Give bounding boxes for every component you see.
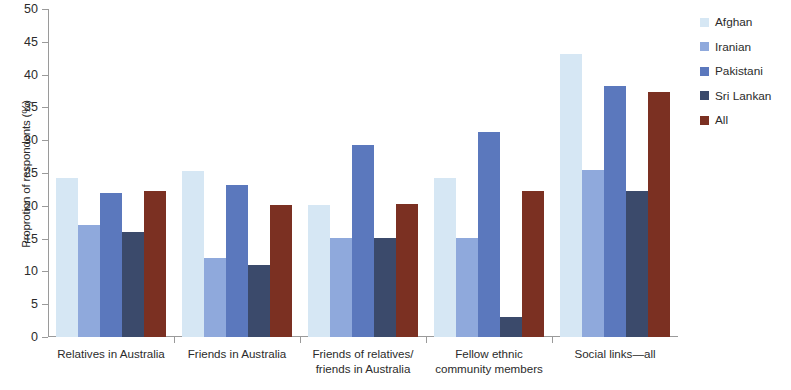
y-tick-mark <box>42 271 48 272</box>
bar <box>522 191 544 337</box>
legend-label: Pakistani <box>715 64 763 78</box>
y-tick-mark <box>42 304 48 305</box>
legend-swatch-icon <box>700 42 709 51</box>
bar <box>144 191 166 337</box>
bar <box>204 258 226 337</box>
y-tick-label: 5 <box>31 297 38 311</box>
y-tick-label: 35 <box>24 100 38 114</box>
bar <box>604 86 626 337</box>
legend-label: Sri Lankan <box>715 89 771 103</box>
legend-item[interactable]: Pakistani <box>700 59 790 84</box>
x-category-label: Friends in Australia <box>174 346 300 361</box>
bar <box>648 92 670 337</box>
y-tick-mark <box>42 9 48 10</box>
y-tick-mark <box>42 337 48 338</box>
x-tick-mark <box>174 337 175 343</box>
y-tick-mark <box>42 239 48 240</box>
bar <box>56 178 78 337</box>
legend-item[interactable]: Iranian <box>700 35 790 60</box>
bar <box>626 191 648 337</box>
x-tick-mark <box>300 337 301 343</box>
y-tick-mark <box>42 42 48 43</box>
y-tick-mark <box>42 173 48 174</box>
bar-group <box>308 9 418 337</box>
bar <box>308 205 330 338</box>
x-category-label: Friends of relatives/ friends in Austral… <box>300 346 426 376</box>
y-tick-mark <box>42 140 48 141</box>
bar <box>582 170 604 337</box>
x-tick-mark <box>552 337 553 343</box>
y-tick-label: 10 <box>24 264 38 278</box>
legend-label: Afghan <box>715 15 752 29</box>
legend-swatch-icon <box>700 18 709 27</box>
bar <box>78 225 100 337</box>
bar <box>560 54 582 337</box>
x-category-label: Relatives in Australia <box>48 346 174 361</box>
y-tick-label: 20 <box>24 199 38 213</box>
bar-group <box>182 9 292 337</box>
bar <box>352 145 374 337</box>
y-tick-mark <box>42 75 48 76</box>
bar <box>100 193 122 337</box>
legend-label: Iranian <box>715 40 751 54</box>
y-tick-label: 45 <box>24 35 38 49</box>
bar <box>456 238 478 337</box>
y-tick-label: 15 <box>24 232 38 246</box>
bar <box>248 265 270 337</box>
legend: AfghanIranianPakistaniSri LankanAll <box>700 10 790 133</box>
bar <box>500 317 522 337</box>
legend-item[interactable]: All <box>700 108 790 133</box>
bar <box>396 204 418 337</box>
y-tick-mark <box>42 107 48 108</box>
bar <box>330 238 352 337</box>
legend-swatch-icon <box>700 67 709 76</box>
y-axis-line <box>48 9 49 337</box>
x-tick-mark <box>426 337 427 343</box>
bar-group <box>56 9 166 337</box>
y-tick-label: 40 <box>24 68 38 82</box>
y-tick-label: 0 <box>31 330 38 344</box>
y-tick-label: 25 <box>24 166 38 180</box>
bar <box>434 178 456 337</box>
bar-group <box>434 9 544 337</box>
bar <box>270 205 292 338</box>
legend-label: All <box>715 113 728 127</box>
y-tick-mark <box>42 206 48 207</box>
bar <box>122 232 144 337</box>
bar-group <box>560 9 670 337</box>
x-category-label: Fellow ethnic community members <box>426 346 552 376</box>
y-tick-label: 30 <box>24 133 38 147</box>
legend-item[interactable]: Sri Lankan <box>700 84 790 109</box>
x-category-label: Social links—all <box>552 346 678 361</box>
bar-chart: Proprotion of respondents (%) 5045403530… <box>0 0 791 390</box>
bar <box>374 238 396 337</box>
bar <box>478 132 500 337</box>
legend-item[interactable]: Afghan <box>700 10 790 35</box>
y-tick-label: 50 <box>24 2 38 16</box>
legend-swatch-icon <box>700 91 709 100</box>
plot-area: 50454035302520151050 <box>48 9 678 337</box>
legend-swatch-icon <box>700 116 709 125</box>
bar <box>226 185 248 337</box>
bar <box>182 171 204 337</box>
